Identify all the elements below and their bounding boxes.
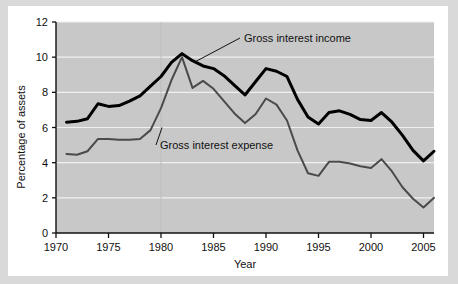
- y-tick-label: 8: [42, 86, 48, 98]
- x-tick-label: 2005: [411, 241, 435, 253]
- chart-figure: 024681012 197019751980198519901995200020…: [0, 0, 458, 284]
- y-tick-label: 12: [36, 16, 48, 28]
- y-tick-label: 10: [36, 51, 48, 63]
- annotation-label: Gross interest expense: [160, 139, 273, 151]
- x-tick-label: 1985: [201, 241, 225, 253]
- annotation-label: Gross interest income: [244, 32, 351, 44]
- line-chart: 024681012 197019751980198519901995200020…: [0, 0, 458, 284]
- y-tick-label: 6: [42, 122, 48, 134]
- y-tick-label: 4: [42, 157, 48, 169]
- x-tick-label: 1995: [306, 241, 330, 253]
- x-tick-label: 2000: [359, 241, 383, 253]
- x-tick-label: 1990: [254, 241, 278, 253]
- y-tick-label: 0: [42, 227, 48, 239]
- x-axis-tick-labels: 19701975198019851990199520002005: [44, 241, 436, 253]
- y-axis-tick-labels: 024681012: [36, 16, 48, 239]
- x-tick-label: 1980: [149, 241, 173, 253]
- y-tick-label: 2: [42, 192, 48, 204]
- x-axis-title: Year: [234, 258, 257, 270]
- x-tick-label: 1975: [96, 241, 120, 253]
- y-axis-title: Percentage of assets: [15, 85, 27, 189]
- x-tick-label: 1970: [44, 241, 68, 253]
